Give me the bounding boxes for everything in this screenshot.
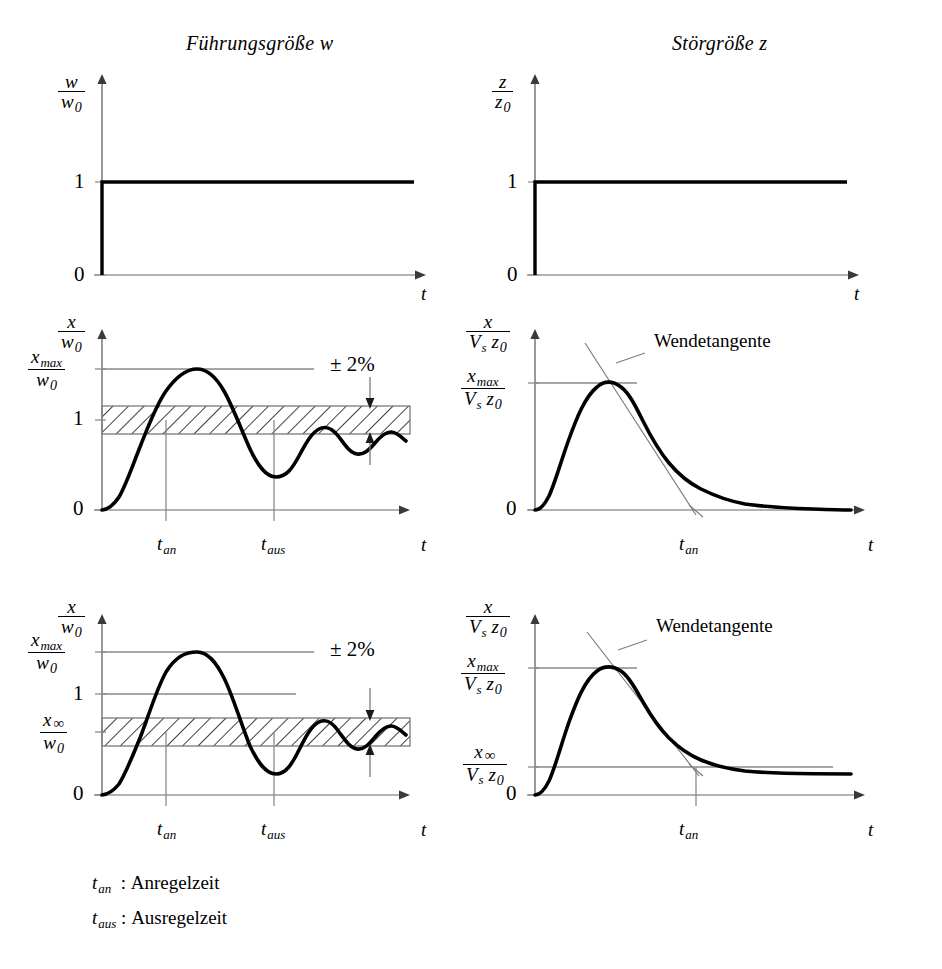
annotation-leader-line <box>618 640 647 650</box>
ytick-label-zero-r3l: 0 <box>73 781 84 806</box>
y-axis-arrowhead <box>97 329 106 339</box>
step-curve <box>102 182 414 275</box>
annotation-wendetangente-r3r: Wendetangente <box>656 615 773 637</box>
xlabel-t-r3l: t <box>421 819 426 841</box>
xtick-label-t-aus-r3l: taus <box>261 819 285 841</box>
xlabel-t-r2r: t <box>868 534 873 556</box>
y-axis-arrowhead <box>97 614 106 624</box>
xtick-label-t-an-r3r: tan <box>679 819 698 841</box>
legend-item-ausregelzeit: taus : Ausregelzeit <box>92 907 227 932</box>
response-curve <box>102 369 406 510</box>
xlabel-t-r1l: t <box>421 283 426 305</box>
x-axis-arrowhead <box>854 506 865 515</box>
xtick-label-t-aus-r2l: taus <box>261 534 285 556</box>
tolerance-label-r3l: ± 2% <box>330 637 375 662</box>
ytick-label-zero-r2r: 0 <box>506 496 517 521</box>
chart-z-response-with-offset <box>533 610 878 825</box>
x-axis-arrowhead <box>399 506 410 515</box>
xlabel-t-r1r: t <box>854 283 859 305</box>
x-axis-arrowhead <box>399 791 410 800</box>
chart-w-response-with-offset <box>100 610 430 825</box>
xtick-label-t-an-r2l: tan <box>157 534 176 556</box>
ytick-label-zero-r1r: 0 <box>507 262 518 287</box>
ylabel-xinf-over-vsz0-r3r: x∞ Vs z0 <box>463 742 507 788</box>
y-axis-arrowhead <box>97 74 106 84</box>
ytick-label-one-r3l: 1 <box>73 681 84 706</box>
figure-root: Führungsgröße w Störgröße z w w0 1 0 t <box>0 0 942 969</box>
tolerance-label-r2l: ± 2% <box>330 352 375 377</box>
ylabel-xmax-over-w0-r3l: xmax w0 <box>28 630 65 676</box>
chart-z-response-no-offset <box>533 325 878 540</box>
ylabel-xinf-over-w0-r3l: x∞ w0 <box>40 710 67 756</box>
chart-z-input-step <box>533 70 863 285</box>
xtick-label-t-an-r2r: tan <box>679 534 698 556</box>
ytick-label-zero-r3r: 0 <box>506 781 517 806</box>
chart-w-input-step <box>100 70 430 285</box>
xlabel-t-r2l: t <box>421 534 426 556</box>
ylabel-z-over-z0: z z0 <box>492 72 513 116</box>
ylabel-xmax-over-w0-r2l: xmax w0 <box>28 347 65 393</box>
ylabel-x-over-vsz0-r2r: x Vs z0 <box>466 312 510 356</box>
response-curve <box>535 667 851 795</box>
y-axis-arrowhead <box>530 329 539 339</box>
ytick-label-one-r2l: 1 <box>73 406 84 431</box>
y-axis-arrowhead <box>530 614 539 624</box>
annotation-leader-line <box>616 353 645 363</box>
annotation-wendetangente-r2r: Wendetangente <box>654 330 771 352</box>
tangent-cross-mark <box>689 505 703 517</box>
tolerance-band <box>102 718 410 746</box>
x-axis-arrowhead <box>848 271 859 280</box>
ytick-label-one-r1r: 1 <box>507 169 518 194</box>
column-title-fuehrungsgroesse: Führungsgröße w <box>186 32 333 55</box>
ylabel-w-over-w0: w w0 <box>58 72 85 116</box>
ytick-label-one-r1l: 1 <box>74 169 85 194</box>
x-axis-arrowhead <box>415 271 426 280</box>
step-curve <box>535 182 847 275</box>
xlabel-t-r3r: t <box>868 819 873 841</box>
ylabel-x-over-vsz0-r3r: x Vs z0 <box>466 597 510 641</box>
y-axis-arrowhead <box>530 74 539 84</box>
ytick-label-zero-r2l: 0 <box>73 496 84 521</box>
ylabel-xmax-over-vsz0-r3r: xmax Vs z0 <box>461 651 505 697</box>
inflection-tangent-line <box>585 343 696 515</box>
column-title-stoergroesse: Störgröße z <box>672 32 767 55</box>
chart-w-response-no-offset <box>100 325 430 540</box>
legend-item-anregelzeit: tan : Anregelzeit <box>92 872 219 897</box>
xtick-label-t-an-r3l: tan <box>157 819 176 841</box>
response-curve <box>535 382 851 510</box>
x-axis-arrowhead <box>854 791 865 800</box>
ytick-label-zero-r1l: 0 <box>74 262 85 287</box>
ylabel-xmax-over-vsz0-r2r: xmax Vs z0 <box>461 366 505 412</box>
